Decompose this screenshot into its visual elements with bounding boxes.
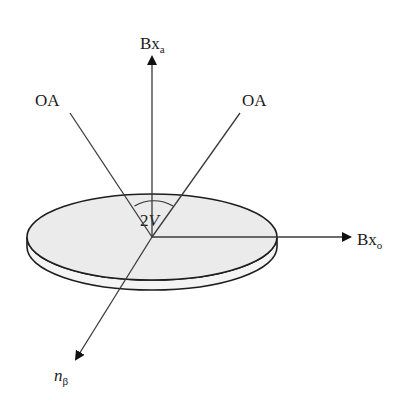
bxo-label: Bxo	[357, 230, 383, 251]
optic-axis-right-label: OA	[242, 91, 267, 110]
bxa-label: Bxa	[140, 34, 165, 55]
optic-axis-left-label: OA	[35, 91, 60, 110]
nbeta-label: nβ	[54, 366, 69, 387]
optic-axes-diagram: 2V Bxa Bxo nβ OA OA	[0, 0, 409, 408]
